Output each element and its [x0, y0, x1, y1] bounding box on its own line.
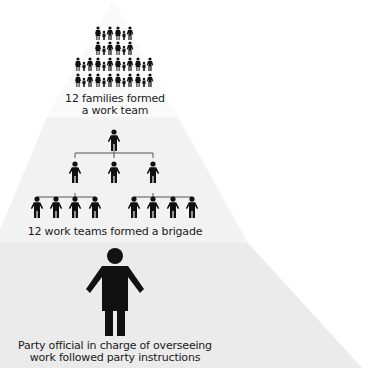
tier-work-teams-caption: 12 work teams formed a brigade — [20, 226, 210, 238]
pyramid-diagram: 12 families formed a work team 12 work t… — [0, 0, 372, 383]
tier-families-caption: 12 families formed a work team — [60, 93, 170, 117]
pyramid-bands — [0, 0, 362, 368]
caption-line: work followed party instructions — [10, 352, 220, 364]
caption-line: a work team — [60, 105, 170, 117]
tier-party-official-caption: Party official in charge of overseeing w… — [10, 340, 220, 364]
pyramid-graphic — [0, 0, 372, 383]
caption-line: 12 work teams formed a brigade — [20, 226, 210, 238]
